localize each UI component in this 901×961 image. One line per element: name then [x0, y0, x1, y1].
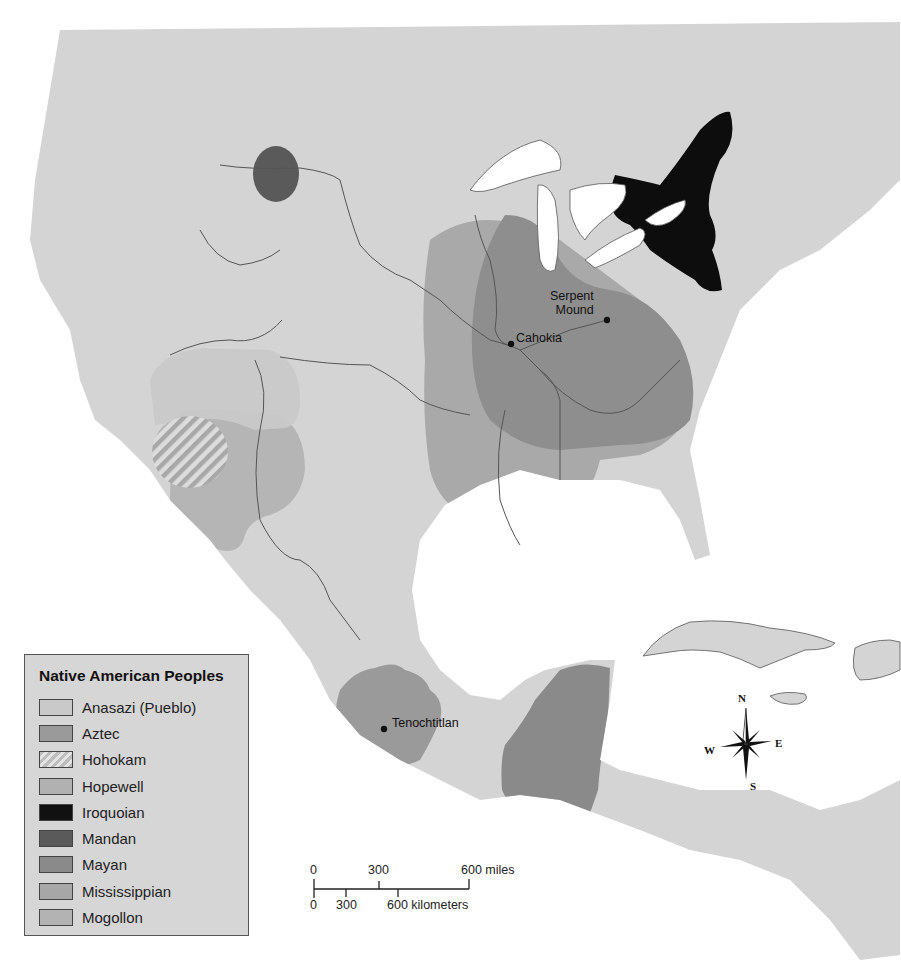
legend-label: Aztec	[82, 725, 120, 742]
compass-e: E	[775, 737, 782, 749]
scale-miles-300: 300	[368, 863, 389, 877]
scale-km-300: 300	[336, 898, 357, 912]
scale-miles-0: 0	[310, 863, 317, 877]
site-label-tenochtitlan: Tenochtitlan	[392, 716, 459, 730]
legend-item-hohokam: Hohokam	[39, 747, 248, 773]
legend-swatch-mayan	[39, 856, 73, 873]
region-hohokam	[152, 416, 228, 488]
scale-km-600: 600 kilometers	[387, 898, 468, 912]
compass-star-icon	[708, 694, 780, 790]
legend-label: Mandan	[82, 830, 136, 847]
legend-label: Hopewell	[82, 778, 144, 795]
legend-item-mandan: Mandan	[39, 825, 248, 851]
legend-swatch-mogollon	[39, 909, 73, 926]
compass-rose: N S E W	[708, 694, 780, 790]
legend-swatch-mandan	[39, 830, 73, 847]
legend-label: Mogollon	[82, 909, 143, 926]
legend-item-mississippian: Mississippian	[39, 878, 248, 904]
site-label-cahokia: Cahokia	[516, 331, 562, 345]
serpent-line1: Serpent	[550, 289, 594, 303]
legend-label: Hohokam	[82, 751, 146, 768]
legend-item-mogollon: Mogollon	[39, 904, 248, 930]
scale-km-0: 0	[310, 898, 317, 912]
legend-swatch-mississippian	[39, 883, 73, 900]
compass-w: W	[704, 744, 715, 756]
legend-item-hopewell: Hopewell	[39, 773, 248, 799]
serpent-mound-marker	[604, 317, 610, 323]
legend-swatch-anasazi	[39, 699, 73, 716]
legend-swatch-hohokam	[39, 751, 73, 768]
legend-swatch-hopewell	[39, 778, 73, 795]
legend-swatch-aztec	[39, 725, 73, 742]
scale-bar: 0 300 600 miles 0 300 600 kilometers	[305, 860, 475, 920]
compass-n: N	[738, 692, 746, 704]
legend-label: Mississippian	[82, 883, 171, 900]
region-mandan	[253, 146, 299, 202]
compass-s: S	[750, 780, 756, 792]
tenochtitlan-marker	[381, 726, 387, 732]
legend: Native American Peoples Anasazi (Pueblo)…	[24, 654, 249, 936]
legend-item-iroquoian: Iroquoian	[39, 799, 248, 825]
site-label-serpent-mound: Serpent Mound	[550, 289, 594, 317]
legend-item-aztec: Aztec	[39, 720, 248, 746]
legend-swatch-iroquoian	[39, 804, 73, 821]
legend-label: Anasazi (Pueblo)	[82, 699, 196, 716]
legend-label: Iroquoian	[82, 804, 145, 821]
scale-miles-600: 600 miles	[461, 863, 515, 877]
legend-item-mayan: Mayan	[39, 852, 248, 878]
legend-label: Mayan	[82, 856, 127, 873]
legend-title: Native American Peoples	[39, 667, 248, 685]
region-anasazi	[150, 348, 300, 430]
serpent-line2: Mound	[550, 303, 594, 317]
legend-item-anasazi: Anasazi (Pueblo)	[39, 694, 248, 720]
cahokia-marker	[508, 341, 514, 347]
